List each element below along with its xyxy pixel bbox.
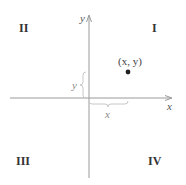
quadrant-iv-label: IV: [148, 154, 162, 168]
x-axis-label: x: [166, 100, 172, 112]
y-axis: [87, 15, 92, 178]
y-axis-label: y: [79, 12, 85, 24]
quadrant-iii-label: III: [16, 154, 30, 168]
x-axis: [10, 96, 172, 101]
y-brace-label: y: [71, 79, 77, 91]
coordinate-plane: y x II I III IV (x, y) y x: [0, 0, 186, 185]
x-brace-label: x: [104, 108, 110, 120]
point-marker: [126, 70, 131, 75]
quadrant-i-label: I: [152, 21, 157, 35]
point-label: (x, y): [118, 55, 142, 68]
quadrant-ii-label: II: [19, 21, 29, 35]
x-brace-icon: [89, 101, 128, 107]
y-brace-icon: [80, 72, 86, 98]
